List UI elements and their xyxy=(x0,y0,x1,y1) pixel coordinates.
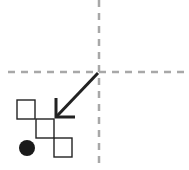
diagram-canvas xyxy=(0,0,189,170)
square-3 xyxy=(54,138,72,157)
filled-dot xyxy=(19,140,35,156)
square-1 xyxy=(17,100,35,119)
arrow-icon xyxy=(56,73,98,117)
square-2 xyxy=(36,119,54,138)
